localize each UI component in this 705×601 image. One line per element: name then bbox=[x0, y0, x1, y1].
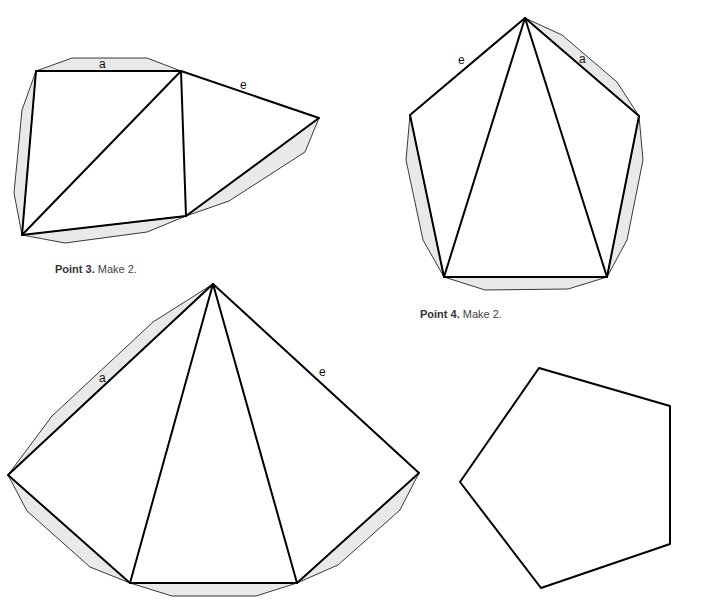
caption-text: Make 2. bbox=[460, 308, 502, 320]
edge-label-a: a bbox=[99, 371, 106, 385]
fold-line bbox=[22, 71, 181, 235]
edge-label-e: e bbox=[458, 53, 465, 67]
fold-line bbox=[130, 284, 213, 583]
edge-label-e: e bbox=[240, 78, 247, 92]
caption-point4: Point 4. Make 2. bbox=[420, 308, 502, 320]
shape-fan-net: a e bbox=[8, 284, 419, 596]
caption-bold: Point 3. bbox=[55, 263, 95, 275]
shape-pentagon-net: e a bbox=[406, 18, 643, 290]
glue-tab bbox=[130, 583, 297, 596]
fold-line bbox=[525, 18, 607, 277]
outline bbox=[460, 368, 670, 588]
caption-point3: Point 3. Make 2. bbox=[55, 263, 137, 275]
edge-label-a: a bbox=[579, 52, 586, 66]
glue-tab bbox=[444, 277, 607, 290]
glue-tab bbox=[22, 216, 186, 243]
edge-label-e: e bbox=[319, 365, 326, 379]
edge-label-a: a bbox=[99, 57, 106, 71]
shape-pentagon-base bbox=[460, 368, 670, 588]
caption-text: Make 2. bbox=[95, 263, 137, 275]
shape-point3-net: a e bbox=[14, 57, 319, 243]
caption-bold: Point 4. bbox=[420, 308, 460, 320]
fold-line bbox=[181, 71, 186, 216]
glue-tab bbox=[36, 58, 181, 71]
net-diagram: a e e a a e bbox=[0, 0, 705, 601]
outline bbox=[410, 18, 639, 277]
fold-line bbox=[213, 284, 297, 583]
fold-line bbox=[444, 18, 525, 277]
